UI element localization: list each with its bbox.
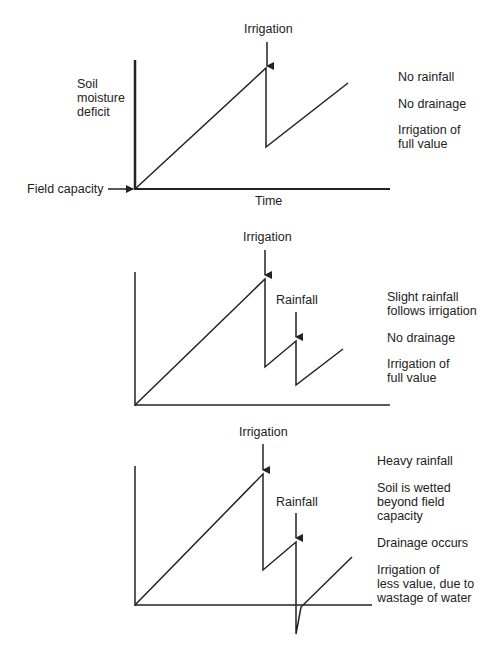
panel-2-note: Irrigation of [387,357,450,371]
panel-3-chart [135,444,372,634]
panel-2-irrigation-label: Irrigation [243,230,292,244]
panel-3-note: Drainage occurs [377,536,468,550]
panel-3-note: Heavy rainfall [377,454,453,468]
panel-1-note: Irrigation of [398,123,461,137]
panel-1-deficit-line [135,68,348,189]
panel-1-note: No rainfall [398,70,454,84]
y-axis-label-line-3: deficit [77,105,110,119]
field-capacity-label: Field capacity [27,182,103,196]
panel-3-rainfall-label: Rainfall [276,495,318,509]
panel-1-note: No drainage [398,97,466,111]
panel-3-note: capacity [377,509,423,523]
y-axis-label-line-1: Soil [77,77,98,91]
panel-1-note: full value [398,137,447,151]
panel-3-note: wastage of water [377,591,472,605]
panel-3-irrigation-label: Irrigation [239,425,288,439]
panel-2-note: Slight rainfall [387,290,459,304]
panel-1-chart [108,42,390,190]
panel-3-note: Irrigation of [377,563,440,577]
panel-3-note: Soil is wetted [377,481,451,495]
panel-2-rainfall-label: Rainfall [276,293,318,307]
panel-3-deficit-line [135,474,352,634]
panel-3-note: beyond field [377,495,444,509]
x-axis-label: Time [255,194,282,208]
panel-2-note: follows irrigation [387,304,477,318]
panel-2-chart [135,250,390,406]
panel-2-note: full value [387,371,436,385]
panel-3-note: less value, due to [377,577,474,591]
y-axis-label-line-2: moisture [77,91,125,105]
panel-1-irrigation-label: Irrigation [244,22,293,36]
panel-2-note: No drainage [387,331,455,345]
